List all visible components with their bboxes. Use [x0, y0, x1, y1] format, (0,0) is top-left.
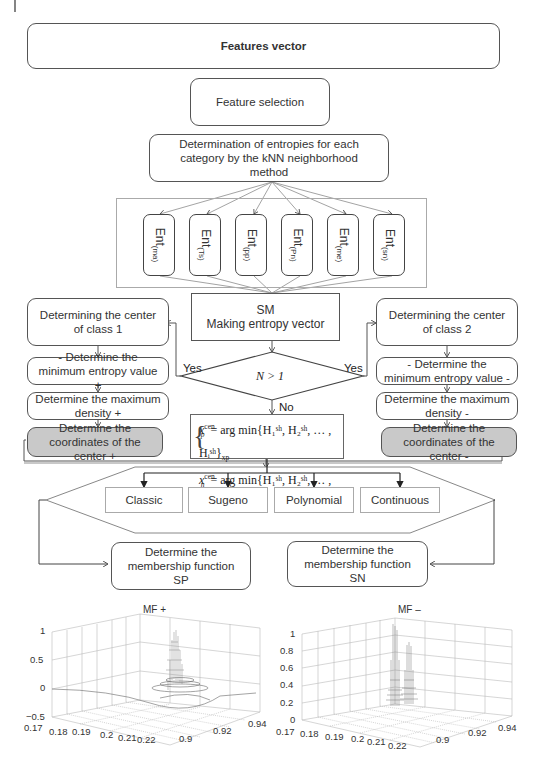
z-tick: 0	[40, 682, 45, 693]
z-tick: 1	[290, 628, 295, 639]
surface-plot-negative	[280, 600, 544, 761]
z-tick: 0	[290, 714, 295, 725]
y-tick: 0.9	[436, 734, 449, 745]
no-label: No	[279, 401, 294, 413]
sm-subtitle: Making entropy vector	[206, 317, 324, 331]
y-tick: 0.9	[179, 733, 192, 744]
x-tick: 0.2	[351, 733, 364, 744]
y-tick: 0.94	[498, 722, 517, 733]
sm-box: SM Making entropy vector	[191, 293, 340, 341]
x-tick: 0.18	[49, 726, 68, 737]
yes-right-label: Yes	[344, 362, 363, 374]
class1-min-entropy-box: - Determine the minimum entropy value +	[27, 357, 169, 385]
formula-box: { xcenp = arg min{H₁ˢʰ, H₂ˢʰ, … , Hᵢˢʰ}x…	[190, 414, 344, 459]
x-tick: 0.21	[118, 732, 137, 743]
entropy-box-sn: Ent(sn)	[373, 214, 405, 276]
mf-type-classic: Classic	[105, 487, 183, 513]
membership-sp-box: Determine the membership function SP	[111, 542, 251, 590]
entropy-box-pp: Ent(pp)	[235, 214, 267, 276]
z-tick: 0.5	[30, 654, 43, 665]
plot-mf-negative: MF –	[280, 600, 544, 761]
y-tick: 0.94	[248, 718, 267, 729]
features-vector-box: Features vector	[27, 23, 500, 69]
x-tick: 0.17	[276, 726, 295, 737]
sm-title: SM	[257, 303, 275, 317]
x-tick: 0.19	[72, 726, 91, 737]
membership-sn-box: Determine the membership function SN	[287, 541, 428, 587]
mf-type-continuous: Continuous	[360, 487, 440, 513]
entropy-box-ts: Ent(Ts)	[189, 214, 221, 276]
mf-type-sugeno: Sugeno	[188, 487, 268, 513]
x-tick: 0.21	[367, 736, 386, 747]
z-tick: 1	[40, 625, 45, 636]
class2-min-entropy-box: - Determine the minimum entropy value -	[376, 357, 518, 385]
entropy-box-ma: Ent(ma)	[143, 214, 175, 276]
class1-max-density-box: Determine the maximum density +	[27, 392, 169, 420]
feature-selection-box: Feature selection	[190, 78, 330, 126]
entropy-box-me: Ent(me)	[327, 214, 359, 276]
x-tick: 0.22	[388, 740, 407, 751]
features-vector-label: Features vector	[221, 39, 307, 53]
class2-max-density-box: Determine the maximum density -	[376, 392, 518, 420]
z-tick: 0.2	[280, 697, 293, 708]
x-tick: 0.19	[325, 731, 344, 742]
class1-coordinates-box: Determine the coordinates of the center …	[27, 427, 163, 457]
yes-left-label: Yes	[183, 362, 202, 374]
x-tick: 0.22	[137, 734, 156, 745]
formula-line-positive: { xcenp = arg min{H₁ˢʰ, H₂ˢʰ, … , Hᵢˢʰ}x…	[191, 418, 343, 468]
feature-selection-label: Feature selection	[216, 95, 304, 109]
y-tick: 0.92	[213, 725, 232, 736]
entropy-determination-box: Determination of entropies for each cate…	[149, 134, 389, 182]
class1-center-box: Determining the center of class 1	[27, 298, 169, 346]
x-tick: 0.18	[300, 728, 319, 739]
mf-type-polynomial: Polynomial	[274, 487, 354, 513]
z-tick: 0.8	[280, 645, 293, 656]
x-tick: 0.2	[100, 729, 113, 740]
decision-label: N > 1	[256, 369, 284, 384]
z-tick: 0.4	[280, 679, 293, 690]
class2-coordinates-box: Determine the coordinates of the center …	[381, 427, 517, 457]
y-tick: 0.92	[468, 727, 487, 738]
entropy-box-pn: Ent(Pn)	[281, 214, 313, 276]
z-tick: −0.5	[26, 711, 45, 722]
class2-center-box: Determining the center of class 2	[376, 298, 518, 346]
z-tick: 0.6	[280, 662, 293, 673]
entropy-determination-label: Determination of entropies for each cate…	[162, 137, 376, 179]
plot-mf-positive: MF +	[20, 600, 270, 761]
x-tick: 0.17	[24, 722, 43, 733]
